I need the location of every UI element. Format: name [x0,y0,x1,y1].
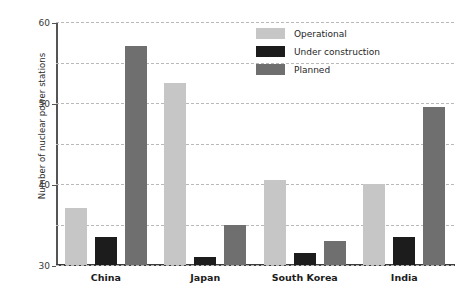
bar-under-construction [393,237,415,265]
bar-operational [264,180,286,265]
plot-area: 0102030405060 [56,22,454,265]
y-axis-title: Number of nuclear power stations [37,26,47,226]
bar-group [156,22,256,265]
bar-operational [363,184,385,265]
y-tick-mark [52,266,56,267]
gridline: 0 [56,265,454,266]
y-tick-label: 50 [39,99,50,109]
x-tick-label: China [91,272,121,283]
legend: OperationalUnder constructionPlanned [256,26,380,80]
legend-label: Operational [294,29,347,39]
legend-label: Under construction [294,47,380,57]
legend-swatch [256,64,285,75]
y-tick-label: 60 [39,18,50,28]
x-tick-label: South Korea [272,272,338,283]
bar-planned [324,241,346,265]
y-tick-label: 40 [39,180,50,190]
bar-planned [125,46,147,265]
bar-group [56,22,156,265]
y-tick-label: 30 [39,261,50,271]
x-tick-label: India [391,272,418,283]
bar-operational [164,83,186,265]
bar-under-construction [294,253,316,265]
legend-swatch [256,46,285,57]
legend-swatch [256,28,285,39]
bar-chart: Number of nuclear power stations 0102030… [0,0,466,303]
bar-operational [65,208,87,265]
legend-item: Planned [256,62,380,77]
legend-label: Planned [294,65,330,75]
bar-planned [423,107,445,265]
legend-item: Operational [256,26,380,41]
bar-under-construction [194,257,216,265]
bar-planned [224,225,246,266]
bar-under-construction [95,237,117,265]
x-tick-label: Japan [190,272,220,283]
legend-item: Under construction [256,44,380,59]
